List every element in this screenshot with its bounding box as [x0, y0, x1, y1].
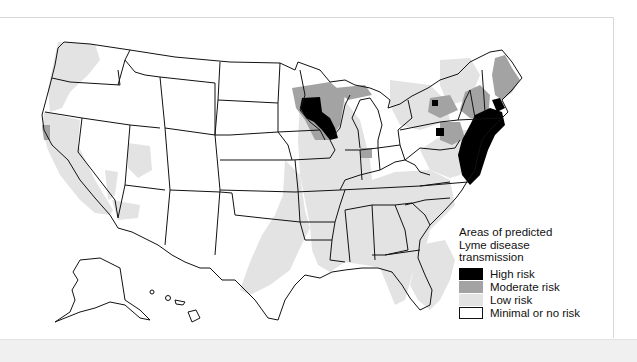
legend-label-minimal-risk: Minimal or no risk	[490, 307, 580, 319]
legend-title-line-1: Areas of predicted	[459, 226, 619, 239]
alaska	[55, 258, 150, 322]
legend-title-line-3: transmission	[459, 251, 619, 264]
legend-item-high-risk: High risk	[459, 268, 619, 281]
legend-item-low-risk: Low risk	[459, 294, 619, 307]
swatch-minimal-risk	[459, 307, 483, 319]
map-legend: Areas of predicted Lyme disease transmis…	[459, 226, 619, 320]
legend-item-moderate-risk: Moderate risk	[459, 281, 619, 294]
legend-title-line-2: Lyme disease	[459, 239, 619, 252]
swatch-low-risk	[459, 294, 483, 306]
legend-title: Areas of predicted Lyme disease transmis…	[459, 226, 619, 264]
swatch-high-risk	[459, 268, 483, 280]
swatch-moderate-risk	[459, 281, 483, 293]
legend-label-low-risk: Low risk	[490, 294, 532, 306]
legend-item-minimal-risk: Minimal or no risk	[459, 307, 619, 320]
hawaii	[150, 290, 200, 322]
low-risk-regions	[42, 42, 480, 310]
legend-label-high-risk: High risk	[490, 268, 535, 280]
legend-label-moderate-risk: Moderate risk	[490, 281, 560, 293]
